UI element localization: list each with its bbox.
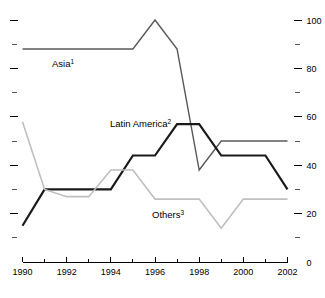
series-annotation-footnote: 1 bbox=[70, 58, 74, 65]
series-annotation-text: Others bbox=[152, 209, 181, 220]
x-axis-tick-label: 1996 bbox=[145, 267, 165, 277]
series-annotation-text: Asia bbox=[52, 58, 71, 69]
y-axis-tick-label: 60 bbox=[307, 112, 317, 122]
series-annotation-text: Latin America bbox=[110, 118, 168, 129]
x-axis-tick-label: 2000 bbox=[233, 267, 253, 277]
y-axis-tick-label: 80 bbox=[307, 64, 317, 74]
series-annotation-footnote: 2 bbox=[168, 118, 172, 125]
x-axis-tick-label: 1992 bbox=[57, 267, 77, 277]
y-axis-tick-label: 40 bbox=[307, 161, 317, 171]
y-axis-tick-label: 20 bbox=[307, 209, 317, 219]
series-annotation-latin-america: Latin America2 bbox=[110, 118, 172, 130]
series-line-asia bbox=[23, 20, 288, 170]
series-annotation-asia: Asia1 bbox=[52, 58, 74, 70]
series-annotation-others: Others3 bbox=[152, 209, 185, 221]
chart-canvas: 1990199219941996199820002002020406080100… bbox=[0, 0, 325, 298]
x-axis-tick-label: 1994 bbox=[101, 267, 121, 277]
x-axis-tick-label: 2002 bbox=[277, 267, 297, 277]
y-axis-tick-label: 100 bbox=[307, 16, 322, 26]
x-axis-tick-label: 1990 bbox=[12, 267, 32, 277]
line-chart-figure: 1990199219941996199820002002020406080100… bbox=[0, 0, 325, 298]
series-annotation-footnote: 3 bbox=[181, 209, 185, 216]
y-axis-tick-label: 0 bbox=[307, 258, 312, 268]
x-axis-tick-label: 1998 bbox=[189, 267, 209, 277]
